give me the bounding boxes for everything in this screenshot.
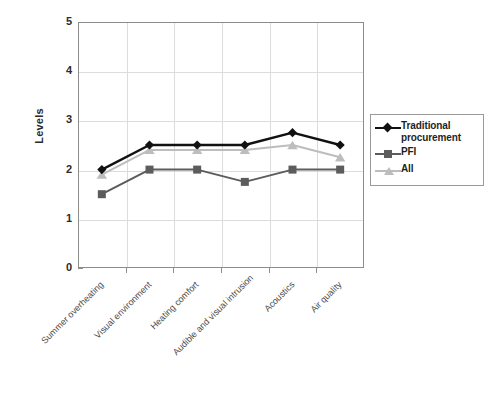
data-point-marker [240,140,249,149]
data-point-marker [146,166,154,174]
legend-label: PFI [401,146,416,158]
legend-diamond-icon [375,121,401,134]
data-point-marker [288,128,297,137]
data-point-marker [145,140,154,149]
legend-square-icon [375,147,401,160]
legend-item-traditional-procurement[interactable]: Traditional procurement [375,120,479,143]
line-chart: Levels 5 4 3 2 1 0 Summer overheating V [0,0,489,396]
legend-item-all[interactable]: All [375,163,479,177]
chart-legend: Traditional procurement PFI All [370,114,484,186]
data-point-marker [336,166,344,174]
legend-item-pfi[interactable]: PFI [375,146,479,160]
data-point-marker [336,140,345,149]
data-point-marker [289,166,297,174]
series-line-pfi [102,170,340,195]
legend-triangle-icon [375,164,401,177]
data-point-marker [193,140,202,149]
legend-label: All [401,163,413,175]
series-line-traditional-procurement [102,133,340,170]
data-point-marker [193,166,201,174]
legend-label: Traditional procurement [401,120,479,143]
data-point-marker [98,190,106,198]
data-point-marker [241,178,249,186]
